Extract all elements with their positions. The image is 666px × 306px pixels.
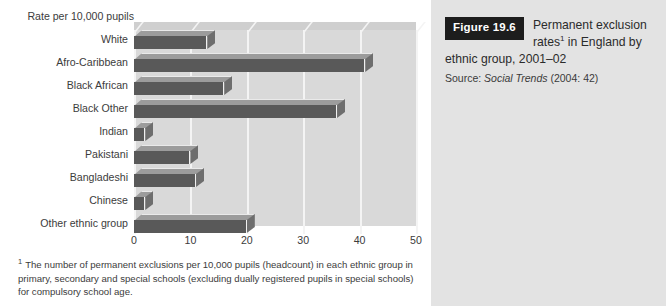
category-axis-labels: WhiteAfro-CaribbeanBlack AfricanBlack Ot…: [6, 28, 134, 235]
bar-front-face: [134, 59, 365, 72]
bar-row: [134, 53, 424, 76]
bar-row: [134, 99, 424, 122]
bar-front-face: [134, 128, 145, 141]
value-axis-ticks: 01020304050: [134, 234, 430, 252]
bar-front-face: [134, 174, 196, 187]
figure-title-line3: ethnic group, 2001–02: [445, 52, 566, 66]
plot-region: [134, 22, 424, 234]
category-label: Afro-Caribbean: [6, 51, 134, 74]
category-label: Pakistani: [6, 143, 134, 166]
figure-number-badge: Figure 19.6: [445, 17, 524, 40]
source-publication: Social Trends: [484, 72, 547, 84]
category-label: Indian: [6, 120, 134, 143]
bar-row: [134, 191, 424, 214]
footnote-text: The number of permanent exclusions per 1…: [18, 259, 414, 297]
figure-title-line2-post: in England by: [564, 35, 641, 49]
bar-row: [134, 30, 424, 53]
bar-series: [134, 30, 424, 234]
caption-panel: Figure 19.6 Permanent exclusion rates1 i…: [431, 0, 666, 306]
figure-title-line2-pre: rates: [533, 35, 560, 49]
bar-row: [134, 145, 424, 168]
bar-front-face: [134, 220, 247, 233]
figure-container: Rate per 10,000 pupils WhiteAfro-Caribbe…: [0, 0, 666, 306]
chart-axis-title: Rate per 10,000 pupils: [16, 10, 134, 22]
category-label: Black Other: [6, 97, 134, 120]
source-suffix: (2004: 42): [548, 72, 599, 84]
source-prefix: Source:: [445, 72, 484, 84]
x-tick-label: 50: [410, 234, 422, 246]
bar-front-face: [134, 82, 224, 95]
figure-title-line1: Permanent exclusion: [533, 18, 647, 32]
category-label: Bangladeshi: [6, 166, 134, 189]
caption-inner: Figure 19.6 Permanent exclusion rates1 i…: [445, 17, 655, 86]
footnote-marker: 1: [18, 257, 22, 266]
chart-area: Rate per 10,000 pupils WhiteAfro-Caribbe…: [0, 0, 431, 306]
bar-front-face: [134, 36, 207, 49]
category-label: Other ethnic group: [6, 212, 134, 235]
bar-row: [134, 168, 424, 191]
bar-front-face: [134, 197, 145, 210]
x-tick-label: 40: [354, 234, 366, 246]
bar-front-face: [134, 151, 190, 164]
bar-front-face: [134, 105, 337, 118]
footnote: 1The number of permanent exclusions per …: [18, 258, 418, 299]
bar-row: [134, 76, 424, 99]
category-label: Chinese: [6, 189, 134, 212]
category-label: Black African: [6, 74, 134, 97]
x-tick-label: 30: [297, 234, 309, 246]
x-tick-label: 0: [131, 234, 137, 246]
figure-source: Source: Social Trends (2004: 42): [445, 68, 655, 86]
x-tick-label: 10: [184, 234, 196, 246]
bar-row: [134, 122, 424, 145]
x-tick-label: 20: [241, 234, 253, 246]
category-label: White: [6, 28, 134, 51]
